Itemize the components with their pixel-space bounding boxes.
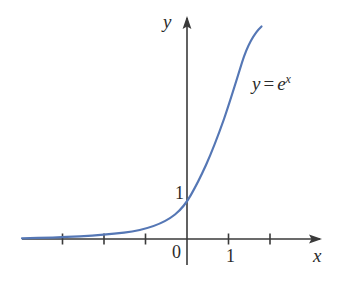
exponential-curve [22, 27, 262, 239]
y-tick-label-one: 1 [175, 184, 184, 202]
curve-equation-label: y=ex [252, 74, 291, 93]
y-axis-label: y [163, 12, 171, 31]
x-tick-label-one: 1 [226, 247, 235, 265]
equation-base: e [277, 73, 285, 94]
exponential-function-figure: y x 0 1 1 y=ex [0, 0, 340, 287]
origin-label: 0 [172, 243, 181, 261]
equation-exponent: x [286, 72, 291, 86]
equation-operator: = [260, 73, 277, 94]
x-axis-label: x [313, 246, 321, 265]
plot-canvas [0, 0, 340, 287]
